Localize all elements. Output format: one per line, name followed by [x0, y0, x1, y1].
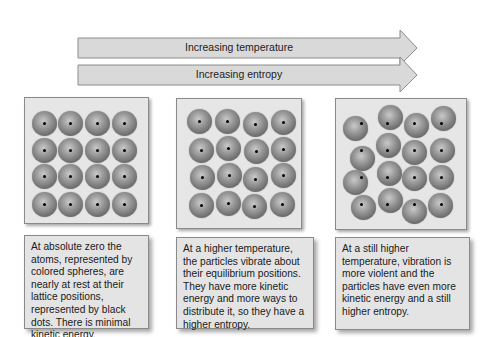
atom-sphere-icon: [402, 140, 427, 165]
lattice-position-dot-icon: [254, 178, 257, 181]
lattice-position-dot-icon: [360, 149, 363, 152]
lattice-position-dot-icon: [69, 203, 72, 206]
lattice-position-dot-icon: [386, 122, 389, 125]
lattice-position-dot-icon: [123, 175, 126, 178]
entropy-arrow-label: Increasing entropy: [78, 68, 400, 80]
lattice-position-dot-icon: [255, 150, 258, 153]
lattice-position-dot-icon: [69, 122, 72, 125]
lattice-position-dot-icon: [360, 122, 363, 125]
atom-sphere-icon: [404, 113, 429, 138]
lattice-position-dot-icon: [413, 122, 416, 125]
lattice-position-dot-icon: [43, 175, 46, 178]
atom-sphere-icon: [343, 170, 368, 195]
lattice-position-dot-icon: [282, 121, 285, 124]
lattice-position-dot-icon: [440, 203, 443, 206]
lattice-position-dot-icon: [413, 203, 416, 206]
lattice-position-dot-icon: [440, 176, 443, 179]
temperature-arrow-label: Increasing temperature: [78, 41, 400, 53]
lattice-position-dot-icon: [123, 122, 126, 125]
lattice-position-dot-icon: [43, 203, 46, 206]
atom-sphere-icon: [377, 161, 402, 186]
lattice-position-dot-icon: [43, 149, 46, 152]
lattice-position-dot-icon: [386, 176, 389, 179]
lattice-position-dot-icon: [360, 176, 363, 179]
lattice-position-dot-icon: [43, 122, 46, 125]
lattice-position-dot-icon: [96, 149, 99, 152]
lattice-position-dot-icon: [282, 148, 285, 151]
atom-sphere-icon: [378, 188, 403, 213]
lattice-position-dot-icon: [227, 147, 230, 150]
atom-sphere-icon: [351, 195, 376, 220]
lattice-position-dot-icon: [96, 175, 99, 178]
lattice-position-dot-icon: [123, 203, 126, 206]
lattice-position-dot-icon: [253, 205, 256, 208]
lattice-position-dot-icon: [69, 149, 72, 152]
lattice-position-dot-icon: [201, 176, 204, 179]
atom-sphere-icon: [343, 116, 368, 141]
lattice-position-dot-icon: [281, 203, 284, 206]
lattice-position-dot-icon: [282, 174, 285, 177]
lattice-position-dot-icon: [96, 122, 99, 125]
atom-sphere-icon: [378, 105, 403, 130]
lattice-position-dot-icon: [386, 149, 389, 152]
atom-sphere-icon: [431, 106, 456, 131]
lattice-position-dot-icon: [226, 120, 229, 123]
lattice-position-dot-icon: [254, 123, 257, 126]
lattice-position-dot-icon: [440, 149, 443, 152]
lattice-position-dot-icon: [360, 203, 363, 206]
lattice-position-dot-icon: [228, 174, 231, 177]
caption-absolute-zero: At absolute zero the atoms, represented …: [24, 235, 149, 329]
lattice-position-dot-icon: [69, 175, 72, 178]
lattice-position-dot-icon: [440, 122, 443, 125]
lattice-position-dot-icon: [413, 149, 416, 152]
lattice-position-dot-icon: [123, 149, 126, 152]
lattice-position-dot-icon: [386, 203, 389, 206]
lattice-position-dot-icon: [200, 204, 203, 207]
lattice-position-dot-icon: [198, 120, 201, 123]
caption-still-higher-temperature: At a still higher temperature, vibration…: [335, 237, 470, 330]
lattice-position-dot-icon: [227, 202, 230, 205]
atom-sphere-icon: [376, 133, 401, 158]
caption-higher-temperature: At a higher temperature, the particles v…: [176, 237, 314, 329]
lattice-position-dot-icon: [200, 149, 203, 152]
lattice-position-dot-icon: [96, 203, 99, 206]
lattice-position-dot-icon: [413, 176, 416, 179]
